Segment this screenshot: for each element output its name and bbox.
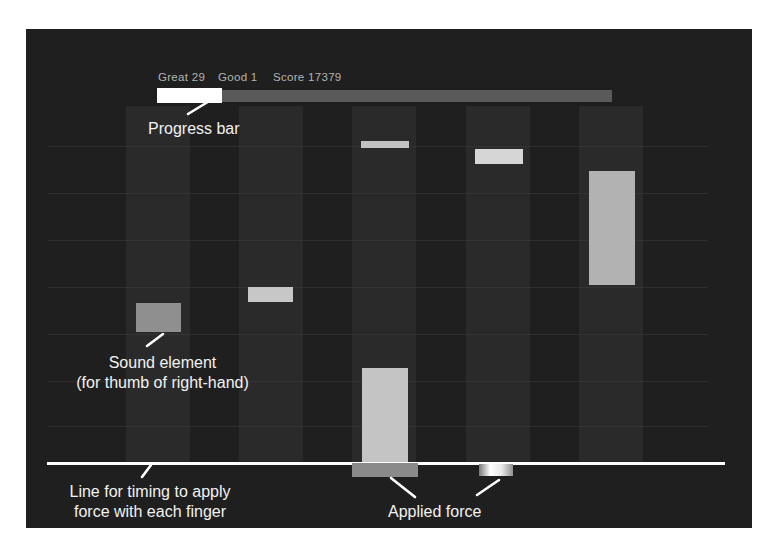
progress-bar-pointer-line <box>188 100 211 114</box>
timing-line-pointer-line <box>142 465 151 477</box>
timing-line-label-line2: force with each finger <box>30 502 270 522</box>
timing-line-label: Line for timing to apply force with each… <box>30 482 270 522</box>
applied-force-pointer-line-left <box>391 478 415 497</box>
applied-force-pointer-line-right <box>477 480 499 495</box>
callout-lines <box>0 0 776 558</box>
sound-element-label-line2: (for thumb of right-hand) <box>40 373 285 393</box>
applied-force-label: Applied force <box>388 502 481 522</box>
progress-bar-label: Progress bar <box>148 119 240 139</box>
sound-element-label: Sound element (for thumb of right-hand) <box>40 353 285 393</box>
sound-element-pointer-line <box>147 334 163 346</box>
sound-element-label-line1: Sound element <box>40 353 285 373</box>
figure: Great 29 Good 1 Score 17379 Progress bar… <box>0 0 776 558</box>
timing-line-label-line1: Line for timing to apply <box>30 482 270 502</box>
